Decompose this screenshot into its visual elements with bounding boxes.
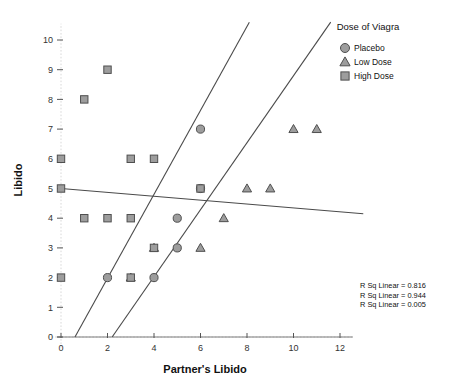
y-tick-label: 10 — [43, 35, 53, 45]
data-point-low-dose — [196, 243, 205, 251]
data-point-high-dose — [104, 215, 111, 222]
data-point-placebo — [173, 244, 181, 252]
data-point-low-dose — [266, 184, 275, 192]
data-point-placebo — [173, 214, 181, 222]
regression-line-low-dose — [112, 22, 331, 337]
y-tick-label: 7 — [48, 124, 53, 134]
data-point-placebo — [150, 274, 158, 282]
data-point-high-dose — [81, 215, 88, 222]
data-point-high-dose — [127, 274, 134, 281]
x-tick-label: 4 — [151, 343, 156, 353]
y-tick-label: 6 — [48, 154, 53, 164]
x-tick-label: 6 — [198, 343, 203, 353]
data-point-low-dose — [219, 214, 228, 222]
x-axis-title: Partner's Libido — [163, 363, 247, 375]
legend: Dose of Viagra PlaceboLow DoseHigh Dose — [337, 21, 400, 81]
legend-item-label: Placebo — [354, 43, 385, 53]
y-tick-label: 2 — [48, 273, 53, 283]
y-tick-label: 4 — [48, 213, 53, 223]
legend-marker-circle-icon — [340, 43, 349, 52]
data-point-low-dose — [242, 184, 251, 192]
regression-line-placebo — [75, 22, 249, 337]
data-point-high-dose — [127, 215, 134, 222]
legend-marker-square-icon — [341, 72, 349, 80]
legend-marker-triangle-icon — [340, 57, 350, 66]
y-tick-label: 9 — [48, 65, 53, 75]
r-squared-label: R Sq Linear = 0.944 — [360, 291, 426, 300]
data-point-high-dose — [150, 244, 157, 251]
data-point-low-dose — [289, 125, 298, 133]
legend-item-high-dose[interactable]: High Dose — [341, 71, 394, 81]
plot-canvas: 024681012012345678910 Libido Partner's L… — [0, 0, 468, 386]
x-tick-label: 10 — [288, 343, 298, 353]
data-point-high-dose — [57, 274, 64, 281]
r-squared-label: R Sq Linear = 0.816 — [360, 281, 426, 290]
data-point-high-dose — [104, 66, 111, 73]
data-point-high-dose — [81, 96, 88, 103]
legend-item-label: Low Dose — [354, 57, 392, 67]
data-point-low-dose — [312, 125, 321, 133]
x-tick-label: 0 — [58, 343, 63, 353]
data-point-placebo — [196, 125, 204, 133]
r-squared-label: R Sq Linear = 0.005 — [360, 300, 426, 309]
legend-item-placebo[interactable]: Placebo — [340, 43, 384, 53]
scatter-plot-figure: 024681012012345678910 Libido Partner's L… — [0, 0, 468, 386]
x-tick-label: 8 — [244, 343, 249, 353]
data-points-group — [57, 66, 321, 282]
data-point-high-dose — [127, 155, 134, 162]
x-tick-label: 2 — [105, 343, 110, 353]
legend-title: Dose of Viagra — [337, 21, 400, 32]
x-tick-label: 12 — [335, 343, 345, 353]
r-squared-annotations: R Sq Linear = 0.816R Sq Linear = 0.944R … — [360, 281, 426, 309]
data-point-high-dose — [150, 155, 157, 162]
legend-item-label: High Dose — [354, 71, 394, 81]
y-axis-title: Libido — [12, 163, 24, 196]
legend-item-low-dose[interactable]: Low Dose — [340, 57, 392, 67]
y-tick-label: 8 — [48, 95, 53, 105]
tick-labels-group: 024681012012345678910 — [43, 35, 345, 353]
legend-items-group: PlaceboLow DoseHigh Dose — [340, 43, 394, 81]
y-tick-label: 0 — [48, 332, 53, 342]
data-point-high-dose — [57, 155, 64, 162]
y-tick-label: 1 — [48, 303, 53, 313]
y-tick-label: 5 — [48, 184, 53, 194]
data-point-high-dose — [57, 185, 64, 192]
y-tick-label: 3 — [48, 243, 53, 253]
data-point-placebo — [103, 274, 111, 282]
data-point-high-dose — [197, 185, 204, 192]
